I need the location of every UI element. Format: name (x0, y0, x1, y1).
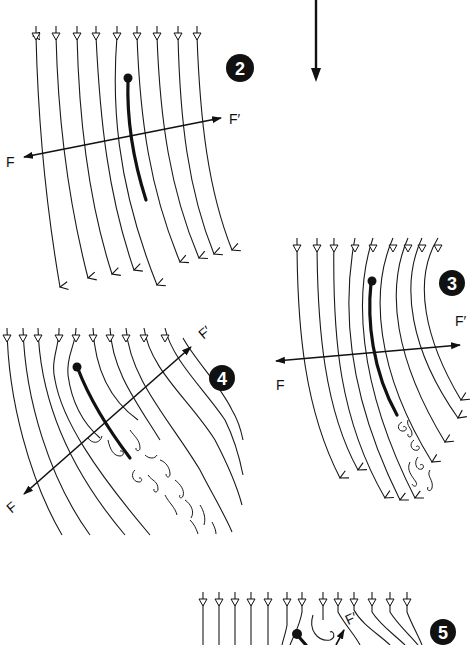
panel-5: F′ 5 (199, 592, 456, 645)
inflow-arrowheads (293, 245, 442, 252)
body-profile (128, 80, 146, 200)
panel-number-badge: 4 (209, 365, 235, 391)
label-f-prime: F′ (229, 111, 241, 127)
panel-number-badge: 2 (226, 54, 254, 82)
body-profile (370, 283, 397, 415)
label-f: F (6, 154, 15, 170)
panel-4: F F′ 4 (3, 322, 243, 535)
panel-number-badge: 5 (430, 619, 456, 645)
panel-2: F F′ 2 (6, 26, 254, 287)
label-f: F (3, 498, 20, 516)
body-profile (78, 369, 130, 458)
diagram-canvas: F F′ 2 (0, 0, 475, 645)
label-f: F (276, 377, 285, 393)
wake-eddies (398, 420, 432, 491)
force-axis (24, 118, 221, 157)
streamlines (199, 592, 422, 645)
inflow-arrowheads (199, 599, 411, 606)
label-f-prime: F′ (455, 313, 467, 329)
main-flow-arrow (311, 0, 321, 82)
svg-text:5: 5 (438, 623, 448, 643)
svg-text:2: 2 (235, 59, 245, 79)
streamlines (3, 328, 243, 535)
panel-number-badge: 3 (439, 270, 465, 296)
label-f-prime: F′ (195, 322, 214, 342)
panel-3: F F′ 3 (276, 238, 467, 500)
force-axis (24, 347, 191, 494)
body-profile (299, 637, 306, 645)
svg-text:4: 4 (217, 369, 227, 389)
label-f-prime: F′ (343, 609, 360, 628)
inflow-arrowheads (32, 33, 201, 40)
svg-text:3: 3 (447, 274, 457, 294)
inflow-arrowheads (3, 335, 169, 342)
force-axis (336, 630, 344, 645)
streamlines (32, 26, 232, 287)
